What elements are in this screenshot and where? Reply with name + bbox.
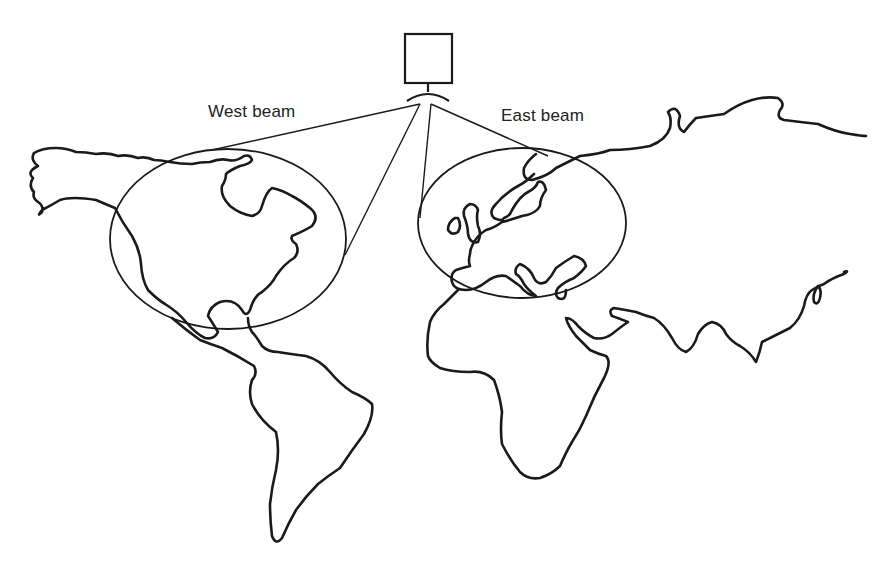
africa-asia-outline bbox=[427, 271, 847, 478]
europe-outline bbox=[448, 97, 866, 299]
north-america-outline bbox=[30, 148, 315, 338]
satellite-icon bbox=[405, 34, 452, 101]
east-beam-label: East beam bbox=[501, 106, 584, 126]
south-america-outline bbox=[172, 318, 372, 542]
west-beam-label: West beam bbox=[208, 102, 295, 122]
satellite-beam-diagram bbox=[0, 0, 879, 571]
